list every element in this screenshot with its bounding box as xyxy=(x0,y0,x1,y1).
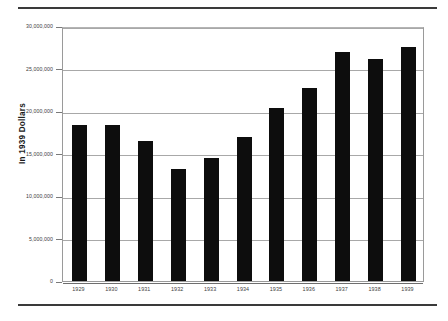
bar xyxy=(72,125,87,281)
bar xyxy=(171,169,186,281)
bar xyxy=(368,59,383,281)
y-axis-tick-label: 25,000,000 xyxy=(26,67,53,72)
plot-area xyxy=(62,27,424,282)
y-axis-tick-label: 30,000,000 xyxy=(26,24,53,29)
gridline xyxy=(63,283,423,284)
bar xyxy=(269,108,284,281)
bar xyxy=(335,52,350,282)
bar xyxy=(237,137,252,281)
y-axis-tick-label: 15,000,000 xyxy=(26,152,53,157)
chart-figure: In 1939 Dollars 05,000,00010,000,00015,0… xyxy=(0,0,448,321)
y-axis-tick-label: 5,000,000 xyxy=(29,237,53,242)
bar xyxy=(204,158,219,281)
bottom-rule xyxy=(18,304,437,306)
gridline xyxy=(63,28,423,29)
bar xyxy=(138,141,153,281)
bar xyxy=(105,125,120,281)
bar xyxy=(302,88,317,281)
y-axis-tick-label: 0 xyxy=(50,279,53,284)
y-axis-tick-label: 10,000,000 xyxy=(26,194,53,199)
y-axis-title: In 1939 Dollars xyxy=(18,94,27,174)
x-axis-tick-label: 1939 xyxy=(388,287,428,292)
y-axis-tick-label: 20,000,000 xyxy=(26,109,53,114)
top-rule xyxy=(18,7,437,9)
bar xyxy=(401,47,416,281)
